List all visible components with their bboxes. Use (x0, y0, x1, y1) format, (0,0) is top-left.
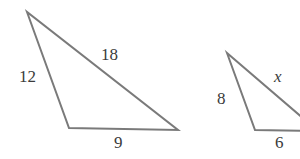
left-triangle-base-label: 9 (114, 134, 123, 151)
geometry-figure: 12 18 9 8 x 6 (0, 0, 300, 159)
left-triangle-shape (27, 12, 178, 130)
right-triangle-shape (227, 53, 300, 131)
triangles-canvas (0, 0, 300, 159)
left-triangle-left-side-label: 12 (19, 68, 36, 85)
right-triangle-base-label: 6 (275, 134, 284, 151)
left-triangle-group (27, 12, 178, 130)
left-triangle-hypotenuse-label: 18 (101, 46, 118, 63)
right-triangle-hypotenuse-label: x (274, 68, 282, 85)
right-triangle-group (227, 53, 300, 131)
right-triangle-left-side-label: 8 (217, 90, 226, 107)
